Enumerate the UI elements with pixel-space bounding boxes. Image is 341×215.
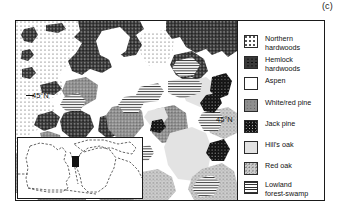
legend-item-jack-pine: Jack pine: [244, 120, 295, 133]
legend-swatch-white-red-pine: [244, 99, 258, 112]
legend-swatch-hemlock-hardwoods: [244, 56, 258, 69]
legend-label-northern-hardwoods: Northern hardwoods: [265, 35, 300, 52]
study-area-marker: [72, 156, 79, 167]
legend-label-red-oak: Red oak: [265, 162, 292, 171]
legend-swatch-red-oak: [244, 162, 258, 175]
latitude-label-left: 45°N: [32, 91, 49, 100]
legend-label-jack-pine: Jack pine: [265, 120, 295, 129]
legend-item-lowland-forest-swamp: Lowland forest-swamp: [244, 181, 308, 198]
legend-label-hemlock-hardwoods: Hemlock hardwoods: [265, 56, 300, 73]
legend-item-northern-hardwoods: Northern hardwoods: [244, 35, 300, 52]
figure-panel: (c): [0, 0, 341, 215]
legend-swatch-hills-oak: [244, 141, 258, 154]
legend-swatch-lowland-forest-swamp: [244, 181, 258, 194]
legend-item-hemlock-hardwoods: Hemlock hardwoods: [244, 56, 300, 73]
legend-label-hills-oak: Hill's oak: [265, 141, 294, 150]
legend-label-lowland-forest-swamp: Lowland forest-swamp: [265, 181, 308, 198]
legend-swatch-northern-hardwoods: [244, 35, 258, 48]
legend-label-aspen: Aspen: [265, 77, 285, 86]
legend-swatch-jack-pine: [244, 120, 258, 133]
figure-frame: 45°N 45°N: [15, 20, 325, 201]
legend-item-hills-oak: Hill's oak: [244, 141, 294, 154]
legend-label-white-red-pine: White/red pine: [265, 99, 311, 108]
locator-inset: [17, 137, 143, 199]
locator-inset-outlines: [18, 138, 142, 198]
panel-label: (c): [322, 1, 333, 11]
legend-item-aspen: Aspen: [244, 77, 285, 90]
latitude-label-right: 45°N: [216, 115, 233, 124]
legend-item-white-red-pine: White/red pine: [244, 99, 311, 112]
legend-item-red-oak: Red oak: [244, 162, 292, 175]
legend: Northern hardwoods Hemlock hardwoods Asp…: [238, 21, 324, 200]
vegetation-map: 45°N 45°N: [16, 21, 238, 200]
legend-swatch-aspen: [244, 77, 258, 90]
